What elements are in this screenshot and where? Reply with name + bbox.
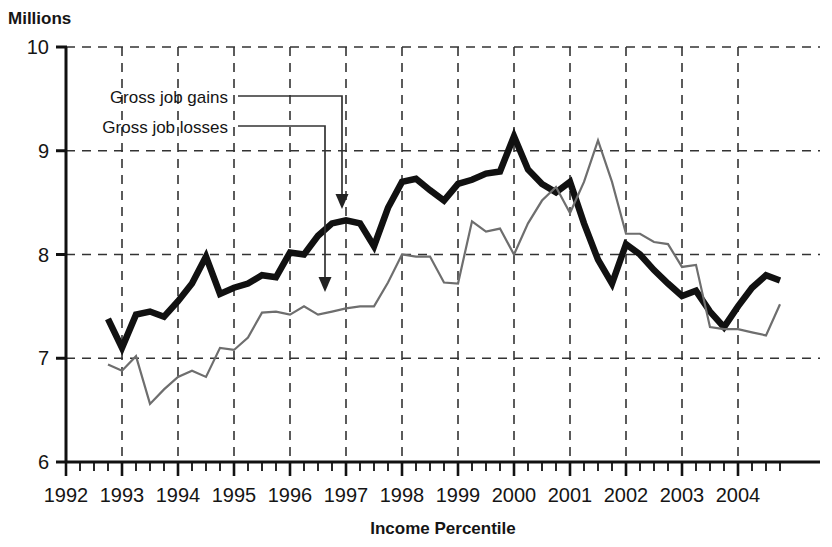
y-axis-tick-label: 8 xyxy=(38,244,49,266)
x-axis-tick-label: 1998 xyxy=(380,484,425,506)
annotation-label: Gross job gains xyxy=(110,88,228,107)
annotation-layer: Gross job gainsGross job losses xyxy=(102,88,348,292)
y-axis-tick-label: 7 xyxy=(38,347,49,369)
x-axis-title: Income Percentile xyxy=(370,519,516,538)
series-line-gross-job-gains xyxy=(108,136,780,348)
x-axis-tick-label: 2004 xyxy=(716,484,761,506)
x-axis-tick-label: 1993 xyxy=(100,484,145,506)
y-axis-tick-labels: 109876 xyxy=(27,36,49,473)
x-axis-tick-label: 1999 xyxy=(436,484,481,506)
x-axis-tick-label: 1994 xyxy=(156,484,201,506)
annotation-arrow-icon xyxy=(336,194,349,209)
x-axis-tick-label: 1996 xyxy=(268,484,313,506)
line-chart: Millions 109876 199219931994199519961997… xyxy=(0,0,832,547)
y-axis-tick-label: 10 xyxy=(27,36,49,58)
x-axis-major-ticks xyxy=(66,462,738,476)
x-axis-tick-label: 2000 xyxy=(492,484,537,506)
y-axis-unit-label: Millions xyxy=(8,9,71,28)
data-series-layer xyxy=(108,136,780,404)
x-axis-tick-labels: 1992199319941995199619971998199920002001… xyxy=(44,484,761,506)
x-axis-tick-label: 2001 xyxy=(548,484,593,506)
y-axis-tick-label: 9 xyxy=(38,140,49,162)
annotation-label: Gross job losses xyxy=(102,118,228,137)
x-axis-tick-label: 1997 xyxy=(324,484,369,506)
y-axis-tick-label: 6 xyxy=(38,451,49,473)
x-axis-tick-label: 2002 xyxy=(604,484,649,506)
x-axis-tick-label: 2003 xyxy=(660,484,705,506)
chart-container: Millions 109876 199219931994199519961997… xyxy=(0,0,832,547)
x-axis-tick-label: 1992 xyxy=(44,484,89,506)
x-axis-tick-label: 1995 xyxy=(212,484,257,506)
annotation-arrow-icon xyxy=(319,277,332,292)
